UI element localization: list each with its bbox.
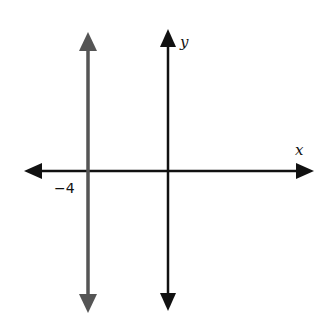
vertical-line-x-neg4 <box>79 32 97 313</box>
x-axis-right-arrow-icon <box>296 163 314 179</box>
coordinate-plane: y x −4 <box>0 0 331 333</box>
y-axis-down-arrow-icon <box>160 293 176 311</box>
x-axis-label: x <box>295 141 304 159</box>
y-axis-up-arrow-icon <box>160 29 176 47</box>
line-down-arrow-icon <box>79 294 97 313</box>
y-axis-label: y <box>179 33 189 51</box>
tick-label-neg4: −4 <box>54 180 75 196</box>
line-up-arrow-icon <box>79 32 97 51</box>
x-axis-left-arrow-icon <box>24 163 42 179</box>
